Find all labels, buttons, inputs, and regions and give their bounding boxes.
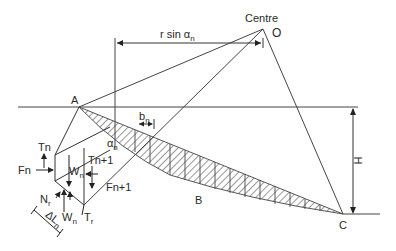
point-O-label: O [272,27,281,39]
Fn-label: Fn [18,165,31,176]
slope-diagram: Centre O r sin αn A bn αn B C H Tn Fn Wn… [0,0,396,251]
alpha-label: αn [107,138,118,152]
b-label: bn [139,111,150,125]
Wn2-text: W [62,211,72,223]
Nr-sub: r [48,199,51,208]
b-sub: n [145,116,149,125]
Nr-text: N [40,193,48,205]
Wn2-sub: n [72,217,76,226]
Wn2-label: Wn [62,212,77,226]
diagram-graphic [0,0,396,251]
Tr-label: Tr [84,212,93,226]
centre-label: Centre [245,13,278,24]
r-sin-sub: n [190,34,194,43]
Tr-sub: r [91,217,94,226]
Wn-sub: n [79,171,83,180]
Tr-text: T [84,211,91,223]
alpha-sub: n [113,143,117,152]
Wn-text: W [69,165,79,177]
point-A-label: A [71,95,78,106]
Fn1-label: Fn+1 [106,182,131,193]
Tn1-label: Tn+1 [88,155,113,166]
Tn-label: Tn [38,142,51,153]
Wn-label: Wn [69,166,84,180]
Nr-label: Nr [40,194,51,208]
point-B-label: B [195,195,202,206]
point-C-label: C [339,220,347,231]
height-label: H [353,157,364,165]
r-sin-text: r sin α [160,28,190,40]
r-sin-label: r sin αn [160,29,195,43]
